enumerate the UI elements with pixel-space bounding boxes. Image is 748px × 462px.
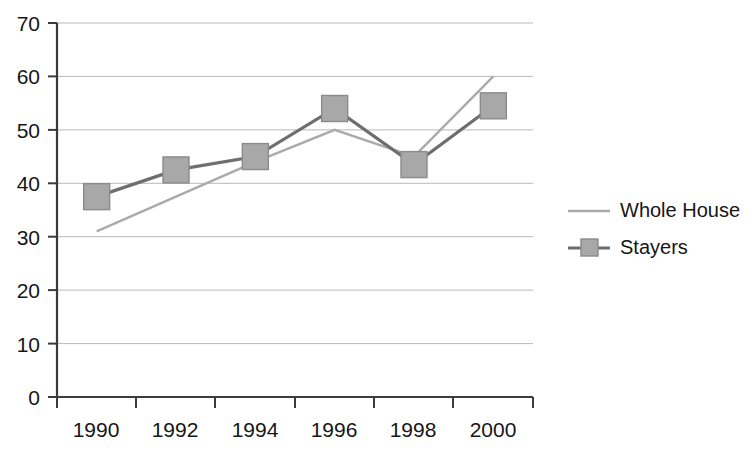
legend-item-stayers[interactable]: Stayers bbox=[568, 236, 688, 258]
legend-label-whole-house: Whole House bbox=[620, 199, 740, 221]
y-axis-label-0: 0 bbox=[28, 386, 40, 409]
x-axis-label-2000: 2000 bbox=[470, 418, 517, 441]
axes bbox=[48, 23, 533, 408]
y-axis-label-50: 50 bbox=[17, 119, 40, 142]
x-axis-label-1996: 1996 bbox=[311, 418, 358, 441]
y-axis-label-70: 70 bbox=[17, 12, 40, 35]
series-group bbox=[84, 76, 507, 231]
chart-canvas: 70 60 50 40 30 20 10 0 1990 1992 1994 19… bbox=[0, 0, 748, 462]
line-chart: 70 60 50 40 30 20 10 0 1990 1992 1994 19… bbox=[0, 0, 748, 462]
data-point-marker bbox=[322, 95, 348, 121]
y-axis-label-20: 20 bbox=[17, 279, 40, 302]
series-line-whole-house bbox=[97, 76, 494, 231]
data-point-marker bbox=[84, 184, 110, 210]
series-markers-stayers bbox=[84, 93, 507, 210]
x-axis-label-1994: 1994 bbox=[232, 418, 279, 441]
data-point-marker bbox=[163, 157, 189, 183]
data-point-marker bbox=[480, 93, 506, 119]
y-axis-label-30: 30 bbox=[17, 226, 40, 249]
y-axis-label-40: 40 bbox=[17, 172, 40, 195]
y-axis-label-10: 10 bbox=[17, 333, 40, 356]
x-axis-labels: 1990 1992 1994 1996 1998 2000 bbox=[73, 418, 517, 441]
legend-swatch-square-stayers bbox=[581, 239, 598, 256]
legend-item-whole-house[interactable]: Whole House bbox=[568, 199, 740, 221]
legend-label-stayers: Stayers bbox=[620, 236, 688, 258]
x-axis-label-1992: 1992 bbox=[152, 418, 199, 441]
data-point-marker bbox=[401, 152, 427, 178]
legend: Whole House Stayers bbox=[568, 199, 740, 258]
y-axis-label-60: 60 bbox=[17, 65, 40, 88]
x-axis-label-1990: 1990 bbox=[73, 418, 120, 441]
data-point-marker bbox=[242, 144, 268, 170]
gridlines bbox=[57, 23, 533, 344]
y-axis-labels: 70 60 50 40 30 20 10 0 bbox=[17, 12, 40, 409]
x-axis-label-1998: 1998 bbox=[390, 418, 437, 441]
